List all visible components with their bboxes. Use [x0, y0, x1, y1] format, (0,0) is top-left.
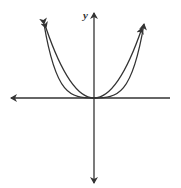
- function-graph: y: [0, 0, 181, 188]
- y-axis-label: y: [83, 9, 88, 21]
- graph-canvas: [0, 0, 181, 188]
